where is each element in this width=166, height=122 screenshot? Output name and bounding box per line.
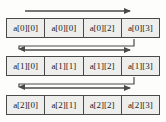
array-cell: a[2][2] <box>84 96 122 114</box>
array-row-0: a[0][0] a[0][0] a[0][2] a[0][3] <box>6 18 160 38</box>
array-traversal-diagram: a[0][0] a[0][0] a[0][2] a[0][3] a[1][0] … <box>0 0 166 122</box>
wrap-connector-row-0-to-row-1 <box>19 39 134 49</box>
array-cell: a[1][0] <box>7 57 45 75</box>
array-row-1: a[1][0] a[1][1] a[1][2] a[1][3] <box>6 56 160 76</box>
array-cell: a[2][3] <box>122 96 159 114</box>
array-cell: a[2][1] <box>45 96 83 114</box>
array-cell: a[0][0] <box>7 19 45 37</box>
array-cell: a[1][1] <box>45 57 83 75</box>
array-cell: a[0][0] <box>45 19 83 37</box>
array-row-2: a[2][0] a[2][1] a[2][2] a[2][3] <box>6 95 160 115</box>
array-cell: a[0][2] <box>84 19 122 37</box>
array-cell: a[1][2] <box>84 57 122 75</box>
wrap-connector-row-1-to-row-2 <box>19 77 134 87</box>
array-cell: a[1][3] <box>122 57 159 75</box>
array-cell: a[2][0] <box>7 96 45 114</box>
array-cell: a[0][3] <box>122 19 159 37</box>
